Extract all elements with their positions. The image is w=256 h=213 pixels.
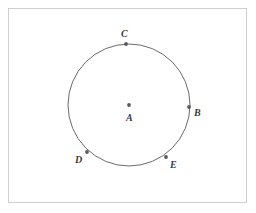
point-marker-a [127, 103, 131, 107]
point-marker-b [187, 105, 191, 109]
figure-screenshot: A B C D E [0, 0, 256, 213]
point-marker-e [164, 155, 168, 159]
circle-diagram-canvas [0, 0, 256, 213]
point-label-a: A [126, 113, 133, 123]
point-label-e: E [170, 160, 177, 170]
point-label-b: B [194, 108, 201, 118]
point-label-d: D [75, 155, 82, 165]
point-label-c: C [121, 29, 128, 39]
point-marker-c [124, 42, 128, 46]
point-marker-d [85, 150, 89, 154]
